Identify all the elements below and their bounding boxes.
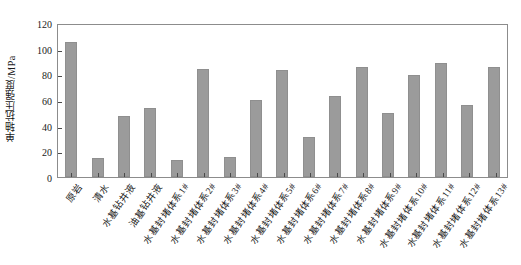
bar bbox=[276, 70, 288, 177]
bar bbox=[197, 69, 209, 177]
bar bbox=[435, 63, 447, 177]
x-tick-mark bbox=[310, 173, 311, 177]
x-tick-mark bbox=[363, 173, 364, 177]
bar bbox=[65, 42, 77, 177]
y-axis-tick-labels: 020406080100120 bbox=[18, 0, 56, 265]
bar-slot bbox=[428, 25, 454, 177]
bar bbox=[303, 137, 315, 177]
bar bbox=[382, 113, 394, 177]
x-tick-mark bbox=[469, 173, 470, 177]
bar bbox=[118, 116, 130, 177]
bar bbox=[461, 105, 473, 178]
y-tick-mark bbox=[58, 76, 62, 77]
bar-slot bbox=[111, 25, 137, 177]
x-tick-mark bbox=[416, 173, 417, 177]
bar-slot bbox=[164, 25, 190, 177]
x-tick-label: 清水 bbox=[89, 180, 112, 205]
x-tick-mark bbox=[390, 173, 391, 177]
x-tick-mark bbox=[257, 173, 258, 177]
bar bbox=[488, 67, 500, 177]
x-tick-mark bbox=[177, 173, 178, 177]
x-axis-tick-labels: 原岩清水水基钻井液油基钻井液水基封堵体系1#水基封堵体系2#水基封堵体系3#水基… bbox=[57, 178, 508, 265]
bar bbox=[356, 67, 368, 177]
bar bbox=[329, 96, 341, 177]
bar-slot bbox=[481, 25, 507, 177]
x-tick-mark bbox=[337, 173, 338, 177]
bar-slot bbox=[190, 25, 216, 177]
y-tick-label: 100 bbox=[37, 44, 52, 55]
x-tick-mark bbox=[230, 173, 231, 177]
bar-slot bbox=[296, 25, 322, 177]
bar bbox=[144, 108, 156, 177]
y-tick-mark bbox=[58, 153, 62, 154]
chart-figure: 单轴抗压强度/MPa 020406080100120 原岩清水水基钻井液油基钻井… bbox=[0, 0, 521, 265]
x-tick-mark bbox=[124, 173, 125, 177]
y-tick-mark bbox=[58, 51, 62, 52]
x-tick-mark bbox=[204, 173, 205, 177]
x-tick-mark bbox=[71, 173, 72, 177]
bar-slot bbox=[401, 25, 427, 177]
y-tick-label: 120 bbox=[37, 19, 52, 30]
bar-slot bbox=[137, 25, 163, 177]
x-tick-mark bbox=[284, 173, 285, 177]
x-tick-mark bbox=[98, 173, 99, 177]
bar-slot bbox=[216, 25, 242, 177]
bar-slot bbox=[375, 25, 401, 177]
y-tick-label: 0 bbox=[47, 173, 52, 184]
plot-area bbox=[57, 24, 508, 178]
bar-slot bbox=[269, 25, 295, 177]
bar-series bbox=[58, 25, 507, 177]
y-tick-label: 20 bbox=[42, 147, 52, 158]
bar-slot bbox=[348, 25, 374, 177]
y-tick-label: 80 bbox=[42, 70, 52, 81]
x-tick-label: 原岩 bbox=[63, 180, 86, 205]
bar-slot bbox=[322, 25, 348, 177]
bar-slot bbox=[243, 25, 269, 177]
bar-slot bbox=[84, 25, 110, 177]
x-tick-mark bbox=[496, 173, 497, 177]
x-tick-mark bbox=[443, 173, 444, 177]
bar bbox=[250, 100, 262, 177]
y-tick-mark bbox=[58, 102, 62, 103]
bar-slot bbox=[454, 25, 480, 177]
x-tick-mark bbox=[151, 173, 152, 177]
y-tick-mark bbox=[58, 128, 62, 129]
y-tick-label: 60 bbox=[42, 96, 52, 107]
y-tick-label: 40 bbox=[42, 121, 52, 132]
bar bbox=[408, 75, 420, 177]
